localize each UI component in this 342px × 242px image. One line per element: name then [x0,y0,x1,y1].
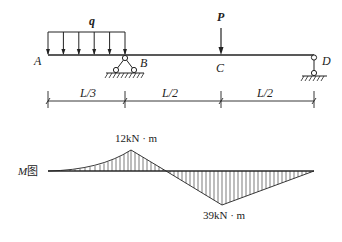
moment-max-positive: 12kN · m [115,132,158,144]
dim-label-2: L/2 [161,86,178,100]
point-load-arrow [219,28,224,55]
dim-label-3: L/2 [256,86,273,100]
moment-diagram [48,150,314,205]
point-a-label: A [33,54,42,68]
moment-diagram-label: M图 [17,165,38,177]
moment-max-negative: 39kN · m [203,209,246,221]
distributed-load [46,32,127,55]
load-p-label: P [217,10,225,24]
point-d-label: D [321,54,331,68]
point-b-label: B [140,56,148,70]
dim-label-1: L/3 [79,86,96,100]
beam-diagram: q P [0,0,342,242]
load-q-label: q [89,14,95,28]
pin-support-icon [105,55,144,78]
point-c-label: C [216,61,225,75]
